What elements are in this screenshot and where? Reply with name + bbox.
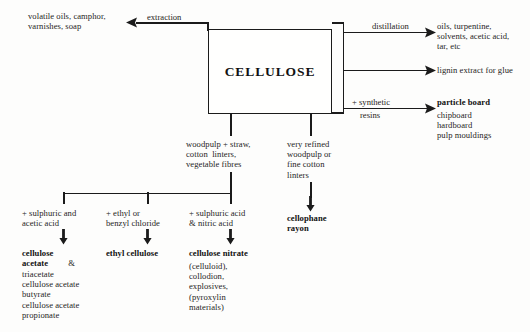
output-oils-turpentine: oils, turpentine, solvents, acetic acid,… bbox=[437, 21, 509, 52]
cellulose-flowchart: CELLULOSE extraction volatile oils, camp… bbox=[0, 0, 530, 332]
product-nitrate-list: (celluloid), collodion, explosives, (pyr… bbox=[189, 261, 228, 312]
reaction-1-down-arrow-icon bbox=[59, 229, 68, 245]
output-volatile-oils: volatile oils, camphor, varnishes, soap bbox=[28, 11, 106, 31]
product-cellulose-acetate: cellulose acetate bbox=[22, 248, 53, 268]
reaction-3-down-arrow-icon bbox=[226, 229, 235, 245]
reagent-ethyl-benzyl: + ethyl or benzyl chloride bbox=[106, 208, 160, 228]
product-cellophane-rayon: cellophane rayon bbox=[287, 213, 327, 233]
output-particle-board: particle board bbox=[437, 97, 490, 107]
lignin-connector bbox=[343, 70, 427, 72]
resins-connector bbox=[343, 108, 427, 110]
extraction-connector bbox=[136, 22, 208, 24]
edge-label-resins: resins bbox=[360, 110, 380, 120]
distillation-connector bbox=[343, 32, 427, 34]
product-cellulose-acetate-suffix: & bbox=[66, 258, 75, 268]
split-branch-1-drop bbox=[63, 192, 65, 204]
edge-label-synthetic: + synthetic bbox=[352, 97, 390, 107]
product-ethyl-cellulose: ethyl cellulose bbox=[106, 248, 158, 258]
product-cellulose-nitrate: cellulose nitrate bbox=[189, 248, 248, 258]
output-board-list: chipboard hardboard pulp mouldings bbox=[437, 110, 491, 141]
product-acetate-list: triacetate cellulose acetate butyrate ce… bbox=[22, 269, 79, 320]
edge-label-distillation: distillation bbox=[372, 21, 409, 31]
feedstock-right-label: very refined woodpulp or fine cotton lin… bbox=[287, 139, 331, 180]
lignin-arrowhead-icon bbox=[424, 65, 436, 76]
reaction-2-down-arrow-icon bbox=[143, 229, 152, 245]
split-branch-3-drop bbox=[230, 192, 232, 204]
split-branch-2-drop bbox=[147, 192, 149, 204]
distillation-arrowhead-icon bbox=[424, 27, 436, 38]
reagent-sulphuric-nitric: + sulphuric acid & nitric acid bbox=[189, 208, 245, 228]
feedstock-left-drop bbox=[230, 114, 232, 136]
right-spine-vertical bbox=[343, 22, 345, 114]
edge-label-extraction: extraction bbox=[147, 12, 181, 22]
node-cellulose-label: CELLULOSE bbox=[209, 64, 331, 80]
rayon-down-arrow-icon bbox=[306, 196, 315, 212]
extraction-arrowhead-icon bbox=[126, 17, 138, 28]
reagent-sulphuric-acetic: + sulphuric and acetic acid bbox=[22, 208, 76, 228]
resins-arrowhead-icon bbox=[424, 103, 436, 114]
feedstock-left-label: woodpulp + straw, cotton linters, vegeta… bbox=[186, 139, 251, 170]
node-cellulose: CELLULOSE bbox=[208, 29, 332, 114]
output-lignin-extract: lignin extract for glue bbox=[437, 65, 513, 75]
feedstock-right-drop bbox=[310, 114, 312, 136]
split-feed-drop bbox=[230, 172, 232, 194]
